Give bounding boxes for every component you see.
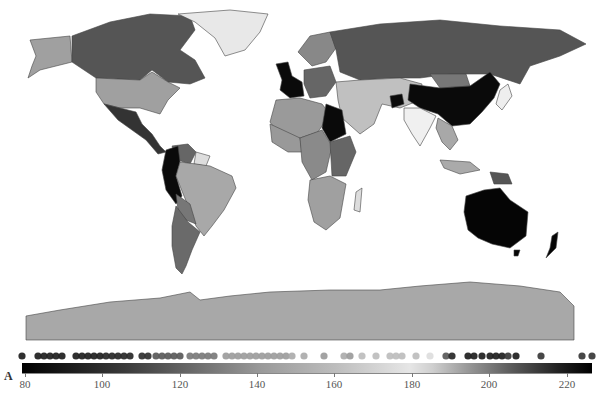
region-mongolia (430, 74, 470, 88)
data-dot (470, 352, 477, 359)
region-southern-africa (308, 176, 346, 230)
tick-mark (489, 373, 490, 377)
data-dot (210, 352, 217, 359)
data-dot (372, 352, 379, 359)
data-dot (537, 352, 544, 359)
region-uk-france (276, 62, 304, 98)
tick-label: 200 (481, 378, 498, 390)
data-dot (512, 352, 519, 359)
tick-mark (334, 373, 335, 377)
tick-mark (25, 373, 26, 377)
data-dot (426, 352, 433, 359)
tick-label: 140 (249, 378, 266, 390)
region-alaska (28, 36, 72, 78)
data-dot (176, 352, 183, 359)
data-dot (448, 352, 455, 359)
data-dot (588, 352, 595, 359)
tick-label: 180 (404, 378, 421, 390)
data-dot (288, 352, 295, 359)
tick-label: 120 (172, 378, 189, 390)
data-dot (504, 352, 511, 359)
region-new-zealand (546, 232, 558, 258)
region-indonesia (440, 160, 480, 174)
region-papua (490, 172, 512, 184)
data-dot (144, 352, 151, 359)
data-dot (58, 352, 65, 359)
colorbar-axis (22, 373, 592, 374)
region-madagascar (354, 188, 362, 212)
region-east-africa (330, 136, 356, 176)
tick-label: 160 (326, 378, 343, 390)
tick-label: 100 (94, 378, 111, 390)
world-choropleth-map (0, 0, 600, 345)
region-tasmania (514, 250, 520, 256)
tick-mark (102, 373, 103, 377)
tick-label: 220 (559, 378, 576, 390)
tick-mark (180, 373, 181, 377)
data-dot (346, 352, 353, 359)
colorbar-gradient (22, 363, 592, 373)
tick-mark (257, 373, 258, 377)
tick-mark (412, 373, 413, 377)
panel-label: A (4, 369, 13, 384)
region-europe-central (304, 66, 336, 98)
data-dot (578, 352, 585, 359)
data-dot (320, 352, 327, 359)
region-antarctica (26, 282, 574, 340)
tick-label: 80 (20, 378, 31, 390)
tick-mark (567, 373, 568, 377)
data-dot (412, 352, 419, 359)
data-dot (398, 352, 405, 359)
data-dot (300, 352, 307, 359)
data-dot (478, 352, 485, 359)
region-canada (72, 14, 205, 84)
data-dot (18, 352, 25, 359)
data-dot (358, 352, 365, 359)
region-australia (464, 188, 528, 248)
region-scandinavia (298, 32, 336, 66)
data-dots-strip (0, 349, 600, 363)
region-india (404, 108, 436, 146)
data-dot (126, 352, 133, 359)
